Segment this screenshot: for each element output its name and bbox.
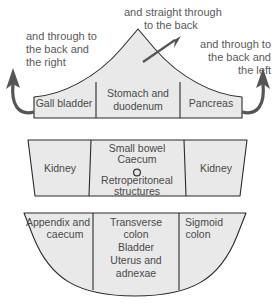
- cell-transverse-colon-line-2: colon: [123, 228, 148, 240]
- arrow-left-curved: [6, 68, 34, 113]
- cell-small-bowel-line-5: structures: [114, 185, 160, 197]
- annotation-top-center: and straight through to the back: [124, 6, 222, 31]
- cell-transverse-colon-line-1: Transverse: [110, 216, 162, 228]
- annotation-top-left-line-2: the back and: [26, 43, 89, 55]
- annotation-top-left-line-3: the right: [26, 56, 66, 68]
- annotation-top-right: and through to the back and the left: [200, 38, 271, 76]
- cell-pancreas-line-1: Pancreas: [189, 97, 233, 109]
- cell-transverse-colon-line-5: adnexae: [116, 267, 156, 279]
- cell-appendix-caecum-line-1: Appendix and: [26, 216, 90, 228]
- arrow-left-curved-stem: [13, 84, 34, 113]
- cell-stomach-duodenum-line-2: duodenum: [113, 100, 163, 112]
- cell-sigmoid-colon-line-1: Sigmoid: [185, 216, 223, 228]
- cell-gall-bladder-line-1: Gall bladder: [36, 97, 93, 109]
- annotation-top-center-line-2: to the back: [144, 19, 198, 31]
- lower-band: Appendix and caecum Transverse colon Bla…: [24, 213, 246, 296]
- annotation-top-right-line-1: and through to: [200, 38, 271, 50]
- diagram-canvas: and through to the back and the right an…: [0, 0, 275, 308]
- cell-transverse-colon-line-3: Bladder: [118, 241, 155, 253]
- annotation-top-right-line-2: the back and: [208, 51, 271, 63]
- cell-stomach-duodenum-line-1: Stomach and: [107, 87, 169, 99]
- cell-transverse-colon-line-4: Uterus and: [110, 254, 162, 266]
- cell-small-bowel-line-2: Caecum: [117, 153, 156, 165]
- annotation-top-left: and through to the back and the right: [26, 30, 97, 68]
- anatomical-diagram: and through to the back and the right an…: [0, 0, 275, 308]
- cell-kidney-left-line-1: Kidney: [44, 162, 77, 174]
- annotation-top-center-line-1: and straight through: [124, 6, 222, 18]
- cell-sigmoid-colon-line-2: colon: [185, 228, 210, 240]
- middle-band: Kidney Small bowel Caecum Retroperitonea…: [28, 140, 247, 197]
- arrow-right-curved-stem: [242, 84, 263, 113]
- annotation-top-left-line-1: and through to: [26, 30, 97, 42]
- annotation-top-right-line-3: the left: [238, 64, 271, 76]
- cell-appendix-caecum-line-2: caecum: [47, 228, 84, 240]
- cell-kidney-right-line-1: Kidney: [200, 162, 233, 174]
- arrow-center-diagonal-head: [169, 36, 181, 48]
